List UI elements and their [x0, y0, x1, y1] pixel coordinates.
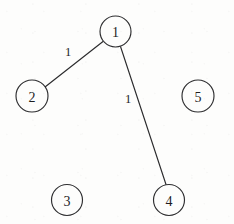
- node-5[interactable]: 5: [182, 80, 214, 112]
- edge-labels-group: 1 1: [65, 45, 131, 106]
- edge-1-2-line: [45, 42, 103, 88]
- edges-group: [45, 42, 166, 185]
- node-5-label: 5: [195, 90, 202, 105]
- edge-1-4-line: [121, 47, 167, 185]
- edge-1-4-weight-label: 1: [125, 92, 131, 106]
- node-4-label: 4: [166, 194, 173, 209]
- edge-1-2-weight-label: 1: [65, 45, 71, 59]
- nodes-group: 1 2 3 4 5: [16, 16, 214, 216]
- node-1[interactable]: 1: [100, 16, 131, 47]
- node-3[interactable]: 3: [52, 185, 83, 216]
- graph-diagram-canvas: 1 2 3 4 5 1 1: [0, 0, 234, 224]
- node-4[interactable]: 4: [154, 185, 185, 216]
- graph-svg: 1 2 3 4 5 1 1: [0, 0, 234, 224]
- node-3-label: 3: [64, 194, 71, 209]
- node-1-label: 1: [112, 25, 119, 40]
- node-2-label: 2: [29, 90, 36, 105]
- node-2[interactable]: 2: [16, 80, 48, 112]
